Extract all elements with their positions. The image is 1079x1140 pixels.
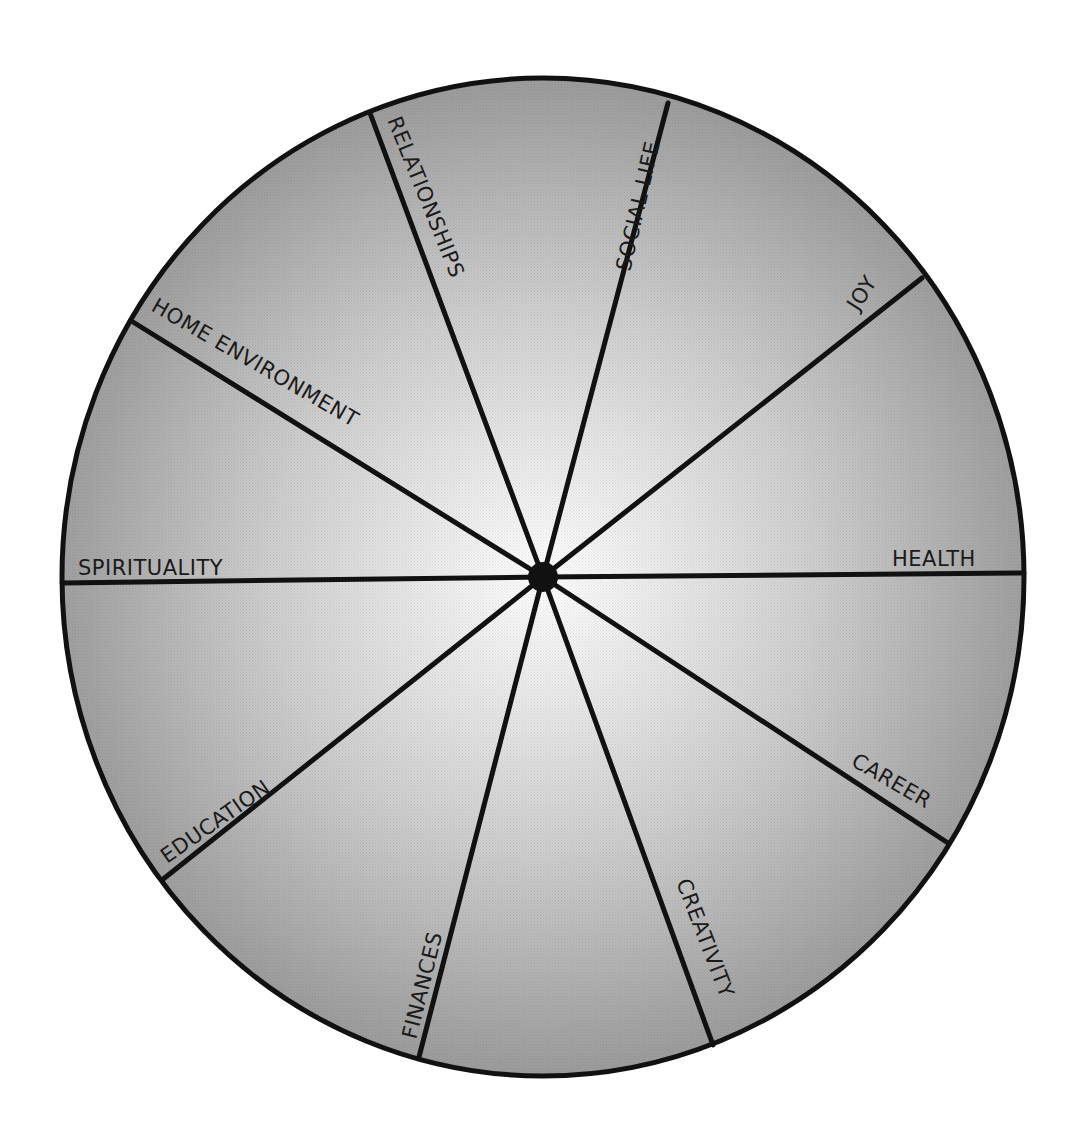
label-spirituality: SPIRITUALITY: [78, 556, 223, 580]
life-wheel-diagram: RELATIONSHIPS SOCIAL LIFE JOY HEALTH CAR…: [0, 0, 1079, 1140]
hub-dot: [528, 562, 558, 592]
label-health: HEALTH: [892, 547, 976, 571]
